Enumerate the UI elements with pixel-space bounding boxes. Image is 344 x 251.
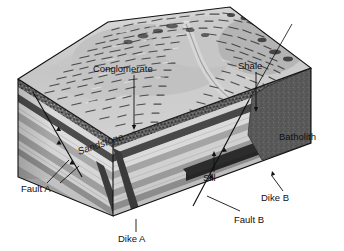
geologic-block-diagram: Conglomerate Shale Sandstone Batholith S… <box>0 0 344 251</box>
label-dike-b: Dike B <box>261 192 289 203</box>
label-dike-a: Dike A <box>118 233 146 244</box>
label-conglomerate: Conglomerate <box>93 63 153 74</box>
label-shale: Shale <box>238 60 262 71</box>
label-fault-a: Fault A <box>21 183 51 194</box>
label-batholith: Batholith <box>279 131 316 142</box>
label-sill: Sill <box>203 172 216 183</box>
figure-canvas: Conglomerate Shale Sandstone Batholith S… <box>0 0 344 251</box>
label-fault-b: Fault B <box>234 214 264 225</box>
